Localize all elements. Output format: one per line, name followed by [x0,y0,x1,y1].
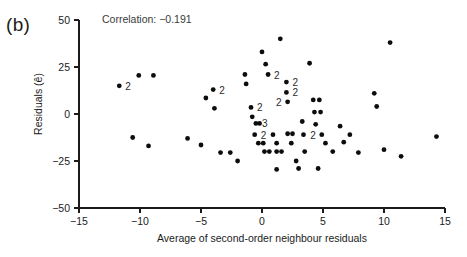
data-point [285,131,290,136]
data-point [300,119,305,124]
data-point [274,167,279,172]
x-tick-label: −5 [195,215,207,227]
data-point [317,98,322,103]
data-point [136,73,141,78]
y-tick-label: −25 [52,155,70,167]
data-point [235,159,240,164]
data-point [263,62,268,67]
data-point [330,149,335,154]
x-tick-label: 10 [378,215,390,227]
data-point [323,141,328,146]
data-point [243,72,248,77]
data-point [311,98,316,103]
data-point [307,61,312,66]
data-point [341,140,346,145]
data-point [374,104,379,109]
data-point [382,147,387,152]
data-point [151,73,156,78]
data-point [260,50,265,55]
data-point [274,141,279,146]
y-axis-ticks: −50−2502550 [52,14,79,214]
data-point [434,134,439,139]
overlap-count-label: 2 [261,130,267,141]
data-point [199,143,204,148]
x-axis-ticks: −15−10−5051015 [70,208,451,227]
y-tick-label: 0 [64,108,70,120]
overlap-count-label: 2 [125,81,131,92]
data-point [312,110,317,115]
data-point [313,122,318,127]
x-tick-label: −15 [70,215,88,227]
overlap-count-label: 2 [257,102,263,113]
data-point [289,141,294,146]
data-point [250,114,255,119]
data-point [244,82,249,87]
overlap-count-label: 2 [310,130,316,141]
y-tick-label: 50 [58,14,70,26]
data-point [356,150,361,155]
data-point [256,141,261,146]
data-point [228,150,233,155]
data-point [316,166,321,171]
data-point [249,105,254,110]
data-point [262,149,267,154]
data-point [372,91,377,96]
data-point [285,99,290,104]
data-point [271,132,276,137]
data-point [399,154,404,159]
overlap-count-label: 2 [292,77,298,88]
data-point [296,166,301,171]
scatter-plot: −50−2502550 −15−10−5051015 2223222222 [0,0,467,257]
data-point [267,149,272,154]
x-tick-label: 5 [320,215,326,227]
data-point [290,131,295,136]
data-point [347,132,352,137]
data-point [301,132,306,137]
data-point [212,106,217,111]
data-point [261,141,266,146]
y-tick-label: −50 [52,202,70,214]
data-point [117,83,122,88]
data-point [130,135,135,140]
data-point [266,72,271,77]
data-point [203,96,208,101]
data-point [284,80,289,85]
data-point [279,149,284,154]
data-point [185,136,190,141]
data-point [388,40,393,45]
overlap-count-label: 2 [274,70,280,81]
figure-panel-b: (b) Correlation: −0.191 Residuals (ê) Av… [0,0,467,257]
data-point [319,132,324,137]
x-tick-label: 0 [259,215,265,227]
overlap-count-label: 3 [262,118,268,129]
data-point [252,132,257,137]
data-point [211,87,216,92]
data-point [318,110,323,115]
data-point [278,36,283,41]
data-point [338,124,343,129]
data-point [302,149,307,154]
data-point [294,159,299,164]
overlap-count-label: 2 [276,97,282,108]
data-point [146,144,151,149]
y-tick-label: 25 [58,61,70,73]
overlap-count-label: 2 [219,85,225,96]
x-tick-label: 15 [439,215,451,227]
data-point [274,149,279,154]
x-tick-label: −10 [131,215,149,227]
overlap-count-label: 2 [292,87,298,98]
data-point [284,90,289,95]
data-point [218,150,223,155]
